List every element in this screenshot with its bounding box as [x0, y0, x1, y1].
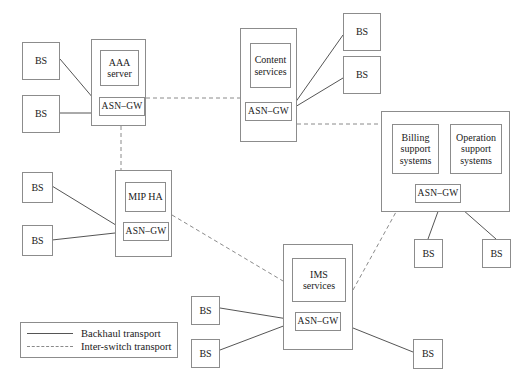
base-station-mipha-2[interactable]: BS [22, 225, 53, 256]
base-station-label: BS [356, 26, 368, 37]
link-bs-mipha-1 [52, 186, 124, 230]
asn-gw-mipha[interactable]: ASN–GW [123, 222, 169, 241]
base-station-label: BS [422, 348, 434, 359]
billing-label-line2: support [400, 143, 430, 154]
base-station-content-1[interactable]: BS [343, 13, 381, 51]
base-station-label: BS [356, 69, 368, 80]
network-diagram: BS BS BS BS BS BS BS BS BS BS BS AAA ser… [0, 0, 524, 382]
operation-support-systems-box[interactable]: Operation support systems [450, 124, 502, 174]
mip-ha-group[interactable]: MIP HA ASN–GW [115, 170, 172, 257]
base-station-label: BS [490, 248, 502, 259]
billing-label-line1: Billing [402, 132, 430, 143]
base-station-label: BS [199, 305, 211, 316]
base-station-label: BS [31, 182, 43, 193]
mip-ha-label: MIP HA [128, 191, 162, 203]
operation-label-line3: systems [460, 155, 492, 166]
base-station-aaa-1[interactable]: BS [22, 42, 60, 80]
asn-gw-label: ASN–GW [298, 316, 339, 327]
operation-label-line2: support [461, 143, 491, 154]
link-mipha-ims-interswitch [172, 215, 283, 281]
base-station-label: BS [35, 108, 47, 119]
operation-support-systems-label: Operation support systems [456, 132, 496, 167]
base-station-ims-3[interactable]: BS [413, 339, 443, 369]
content-services-label-line1: Content [255, 54, 287, 65]
solid-line-icon [27, 333, 73, 334]
asn-gw-content[interactable]: ASN–GW [245, 102, 292, 121]
content-services-group[interactable]: Content services ASN–GW [240, 28, 297, 142]
legend: Backhaul transport Inter-switch transpor… [20, 322, 178, 358]
link-bs-content-1 [290, 35, 343, 110]
base-station-label: BS [35, 55, 47, 66]
aaa-server-box[interactable]: AAA server [100, 50, 139, 86]
link-ims-oss-interswitch [353, 212, 396, 290]
base-station-content-2[interactable]: BS [343, 56, 381, 94]
dashed-line-icon [27, 346, 73, 347]
base-station-ims-2[interactable]: BS [191, 339, 220, 368]
billing-support-systems-label: Billing support systems [400, 132, 432, 167]
content-services-label: Content services [254, 54, 286, 77]
aaa-server-label: AAA server [107, 57, 131, 80]
base-station-ims-1[interactable]: BS [191, 296, 220, 325]
asn-gw-label: ASN–GW [418, 188, 459, 199]
asn-gw-label: ASN–GW [102, 101, 143, 112]
asn-gw-aaa[interactable]: ASN–GW [99, 97, 145, 116]
asn-gw-oss[interactable]: ASN–GW [415, 184, 461, 203]
aaa-server-label-line1: AAA [109, 57, 131, 68]
mip-ha-box[interactable]: MIP HA [125, 182, 166, 212]
operation-label-line1: Operation [456, 132, 496, 143]
base-station-label: BS [199, 348, 211, 359]
legend-item-backhaul: Backhaul transport [27, 327, 171, 340]
asn-gw-label: ASN–GW [126, 226, 167, 237]
content-services-box[interactable]: Content services [250, 43, 291, 88]
base-station-mipha-1[interactable]: BS [22, 172, 53, 203]
legend-label-backhaul: Backhaul transport [81, 328, 161, 339]
support-systems-group[interactable]: Billing support systems Operation suppor… [381, 111, 510, 212]
billing-label-line3: systems [400, 155, 432, 166]
base-station-label: BS [422, 248, 434, 259]
link-bs-content-2 [290, 78, 343, 110]
ims-services-group[interactable]: IMS services ASN–GW [283, 244, 353, 350]
legend-label-interswitch: Inter-switch transport [81, 341, 171, 352]
base-station-label: BS [31, 235, 43, 246]
ims-services-label: IMS services [293, 269, 345, 292]
base-station-aaa-2[interactable]: BS [22, 95, 60, 133]
aaa-server-group[interactable]: AAA server ASN–GW [91, 39, 146, 126]
base-station-oss-2[interactable]: BS [482, 239, 511, 268]
legend-item-interswitch: Inter-switch transport [27, 340, 171, 353]
billing-support-systems-box[interactable]: Billing support systems [392, 124, 439, 174]
content-services-label-line2: services [254, 66, 286, 77]
asn-gw-label: ASN–GW [248, 106, 289, 117]
base-station-oss-1[interactable]: BS [414, 239, 443, 268]
aaa-server-label-line2: server [107, 68, 131, 79]
link-bs-mipha-2 [52, 232, 124, 240]
asn-gw-ims[interactable]: ASN–GW [295, 312, 341, 331]
ims-services-box[interactable]: IMS services [292, 258, 346, 302]
